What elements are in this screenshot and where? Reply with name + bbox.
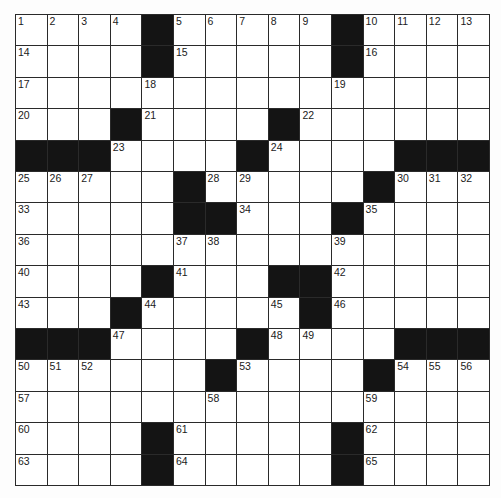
crossword-cell[interactable]: 22 <box>300 109 331 139</box>
crossword-cell[interactable] <box>427 298 458 328</box>
crossword-cell[interactable]: 43 <box>16 298 47 328</box>
crossword-cell[interactable] <box>427 423 458 453</box>
crossword-cell[interactable]: 4 <box>111 15 142 45</box>
crossword-cell[interactable] <box>458 46 489 76</box>
crossword-cell[interactable] <box>79 203 110 233</box>
crossword-cell[interactable] <box>174 141 205 171</box>
crossword-cell[interactable] <box>48 109 79 139</box>
crossword-cell[interactable] <box>111 423 142 453</box>
crossword-cell[interactable]: 30 <box>395 172 426 202</box>
crossword-cell[interactable] <box>237 109 268 139</box>
crossword-cell[interactable]: 44 <box>142 298 173 328</box>
crossword-cell[interactable]: 6 <box>206 15 237 45</box>
crossword-cell[interactable] <box>364 141 395 171</box>
crossword-cell[interactable]: 24 <box>269 141 300 171</box>
crossword-cell[interactable] <box>427 455 458 485</box>
crossword-cell[interactable] <box>458 298 489 328</box>
crossword-cell[interactable] <box>142 141 173 171</box>
crossword-cell[interactable] <box>332 360 363 390</box>
crossword-cell[interactable]: 33 <box>16 203 47 233</box>
crossword-cell[interactable]: 60 <box>16 423 47 453</box>
crossword-cell[interactable] <box>206 455 237 485</box>
crossword-cell[interactable] <box>142 235 173 265</box>
crossword-cell[interactable] <box>111 203 142 233</box>
crossword-cell[interactable] <box>364 109 395 139</box>
crossword-cell[interactable]: 31 <box>427 172 458 202</box>
crossword-cell[interactable] <box>142 203 173 233</box>
crossword-cell[interactable]: 9 <box>300 15 331 45</box>
crossword-cell[interactable]: 34 <box>237 203 268 233</box>
crossword-cell[interactable] <box>48 46 79 76</box>
crossword-cell[interactable]: 65 <box>364 455 395 485</box>
crossword-cell[interactable] <box>48 423 79 453</box>
crossword-cell[interactable] <box>206 266 237 296</box>
crossword-cell[interactable] <box>269 46 300 76</box>
crossword-cell[interactable] <box>79 235 110 265</box>
crossword-cell[interactable]: 54 <box>395 360 426 390</box>
crossword-cell[interactable] <box>48 298 79 328</box>
crossword-cell[interactable] <box>458 392 489 422</box>
crossword-cell[interactable] <box>269 203 300 233</box>
crossword-cell[interactable] <box>395 235 426 265</box>
crossword-cell[interactable] <box>237 298 268 328</box>
crossword-cell[interactable] <box>364 329 395 359</box>
crossword-cell[interactable]: 47 <box>111 329 142 359</box>
crossword-cell[interactable] <box>237 235 268 265</box>
crossword-cell[interactable]: 8 <box>269 15 300 45</box>
crossword-cell[interactable] <box>237 423 268 453</box>
crossword-cell[interactable] <box>206 109 237 139</box>
crossword-cell[interactable] <box>269 235 300 265</box>
crossword-cell[interactable] <box>206 298 237 328</box>
crossword-cell[interactable] <box>174 78 205 108</box>
crossword-cell[interactable] <box>206 329 237 359</box>
crossword-cell[interactable] <box>427 392 458 422</box>
crossword-cell[interactable] <box>174 298 205 328</box>
crossword-cell[interactable]: 11 <box>395 15 426 45</box>
crossword-cell[interactable] <box>269 172 300 202</box>
crossword-cell[interactable] <box>300 235 331 265</box>
crossword-cell[interactable]: 7 <box>237 15 268 45</box>
crossword-cell[interactable] <box>48 203 79 233</box>
crossword-cell[interactable] <box>332 392 363 422</box>
crossword-cell[interactable]: 46 <box>332 298 363 328</box>
crossword-cell[interactable] <box>300 423 331 453</box>
crossword-cell[interactable]: 52 <box>79 360 110 390</box>
crossword-cell[interactable] <box>332 172 363 202</box>
crossword-cell[interactable] <box>48 78 79 108</box>
crossword-cell[interactable]: 41 <box>174 266 205 296</box>
crossword-cell[interactable] <box>395 266 426 296</box>
crossword-cell[interactable] <box>237 78 268 108</box>
crossword-cell[interactable] <box>79 392 110 422</box>
crossword-cell[interactable] <box>206 141 237 171</box>
crossword-cell[interactable]: 13 <box>458 15 489 45</box>
crossword-cell[interactable] <box>206 78 237 108</box>
crossword-cell[interactable] <box>111 360 142 390</box>
crossword-cell[interactable] <box>458 423 489 453</box>
crossword-cell[interactable]: 5 <box>174 15 205 45</box>
crossword-cell[interactable]: 53 <box>237 360 268 390</box>
crossword-cell[interactable] <box>458 78 489 108</box>
crossword-cell[interactable]: 64 <box>174 455 205 485</box>
crossword-cell[interactable] <box>237 392 268 422</box>
crossword-cell[interactable]: 63 <box>16 455 47 485</box>
crossword-cell[interactable] <box>458 455 489 485</box>
crossword-cell[interactable]: 15 <box>174 46 205 76</box>
crossword-cell[interactable] <box>206 423 237 453</box>
crossword-cell[interactable] <box>427 203 458 233</box>
crossword-cell[interactable]: 29 <box>237 172 268 202</box>
crossword-cell[interactable] <box>427 46 458 76</box>
crossword-cell[interactable]: 25 <box>16 172 47 202</box>
crossword-cell[interactable] <box>458 203 489 233</box>
crossword-cell[interactable]: 35 <box>364 203 395 233</box>
crossword-cell[interactable] <box>111 392 142 422</box>
crossword-cell[interactable] <box>395 203 426 233</box>
crossword-cell[interactable]: 57 <box>16 392 47 422</box>
crossword-cell[interactable] <box>79 46 110 76</box>
crossword-cell[interactable] <box>174 392 205 422</box>
crossword-cell[interactable] <box>111 78 142 108</box>
crossword-cell[interactable]: 55 <box>427 360 458 390</box>
crossword-cell[interactable] <box>300 203 331 233</box>
crossword-cell[interactable] <box>79 78 110 108</box>
crossword-cell[interactable] <box>237 46 268 76</box>
crossword-cell[interactable] <box>142 360 173 390</box>
